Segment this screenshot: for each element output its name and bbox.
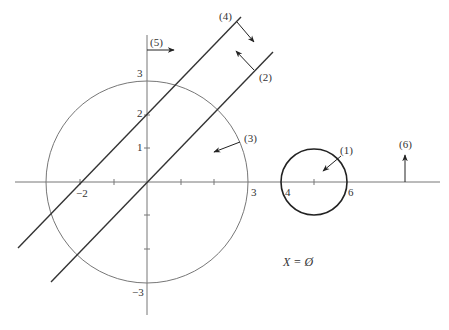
feasible-region-diagram xyxy=(0,0,449,330)
x-tick-label-6: 6 xyxy=(348,187,354,198)
constraint-2-line xyxy=(51,52,273,282)
constraint-1-arrow-icon xyxy=(323,156,341,171)
constraint-3-arrow-icon xyxy=(214,142,240,152)
constraint-label-5: (5) xyxy=(150,37,163,48)
feasible-set-caption: X = Ø xyxy=(283,256,313,268)
constraint-label-4: (4) xyxy=(219,11,232,22)
constraint-4-line xyxy=(18,17,241,248)
y-tick-label-1: 1 xyxy=(137,142,143,153)
constraint-label-1: (1) xyxy=(340,145,353,156)
x-tick-label-neg2: −2 xyxy=(76,188,88,199)
constraint-label-2: (2) xyxy=(259,72,272,83)
constraint-label-3: (3) xyxy=(244,133,257,144)
x-tick-label-4: 4 xyxy=(285,187,291,198)
constraint-4-arrow-icon xyxy=(237,22,254,42)
x-tick-label-3: 3 xyxy=(251,187,257,198)
y-tick-label-neg3: −3 xyxy=(132,287,144,298)
y-tick-label-2: 2 xyxy=(137,108,143,119)
constraint-label-6: (6) xyxy=(399,139,412,150)
y-tick-label-3: 3 xyxy=(137,68,143,79)
constraint-2-arrow-icon xyxy=(236,51,254,70)
